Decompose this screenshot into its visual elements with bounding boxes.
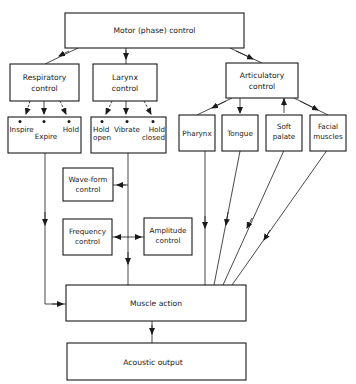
amplitude-control-box: Amplitude control xyxy=(144,218,192,255)
amplitude-label-1: Amplitude xyxy=(150,226,187,235)
motor-connectors xyxy=(45,48,262,64)
speech-production-diagram: Motor (phase) control Respiratory contro… xyxy=(0,0,356,384)
hold-open-label-2: open xyxy=(93,133,111,142)
hold-label: Hold xyxy=(63,125,79,134)
muscle-action-box: Muscle action xyxy=(66,285,246,321)
waveform-label-2: control xyxy=(76,185,101,194)
expire-label: Expire xyxy=(35,132,58,141)
larynx-label-1: Larynx xyxy=(112,73,138,82)
articulatory-label-1: Articulatory xyxy=(240,71,285,80)
larynx-label-2: control xyxy=(112,84,138,93)
larynx-to-muscle-line xyxy=(112,153,144,285)
soft-palate-box: Soft palate xyxy=(266,115,302,151)
respiratory-control-box: Respiratory control xyxy=(10,64,79,101)
pharynx-label: Pharynx xyxy=(182,129,212,138)
tongue-label: Tongue xyxy=(226,129,253,138)
frequency-label-2: control xyxy=(75,237,100,246)
waveform-control-box: Wave-form control xyxy=(63,168,113,201)
soft-palate-label-2: palate xyxy=(273,132,296,141)
inspire-label: Inspire xyxy=(10,125,35,134)
amplitude-label-2: control xyxy=(156,236,181,245)
facial-muscles-box: Facial muscles xyxy=(310,115,346,151)
facial-label-2: muscles xyxy=(313,132,343,141)
pharynx-box: Pharynx xyxy=(179,115,215,151)
muscle-action-label: Muscle action xyxy=(130,299,182,308)
soft-palate-label-1: Soft xyxy=(277,122,291,131)
respiratory-label-2: control xyxy=(31,84,57,93)
articulator-to-muscle-lines xyxy=(205,146,330,285)
articulatory-control-box: Articulatory control xyxy=(226,63,298,98)
hold-closed-label-2: closed xyxy=(142,133,165,142)
hold-open-dot xyxy=(101,120,104,123)
vibrate-label: Vibrate xyxy=(114,125,140,134)
vibrate-dot xyxy=(126,120,129,123)
hold-closed-dot xyxy=(152,120,155,123)
respiratory-option-connectors xyxy=(26,101,66,114)
articulatory-label-2: control xyxy=(249,82,275,91)
motor-control-label: Motor (phase) control xyxy=(114,26,196,35)
larynx-option-connectors xyxy=(106,101,151,114)
larynx-control-box: Larynx control xyxy=(93,64,157,101)
acoustic-output-box: Acoustic output xyxy=(67,343,246,380)
respiratory-options-box: Inspire Expire Hold xyxy=(8,117,81,153)
respiratory-label-1: Respiratory xyxy=(23,73,67,82)
waveform-label-1: Wave-form xyxy=(68,175,107,184)
frequency-label-1: Frequency xyxy=(69,227,107,236)
larynx-options-box: Hold open Vibrate Hold closed xyxy=(91,117,166,153)
acoustic-output-label: Acoustic output xyxy=(123,358,182,367)
articulatory-connectors xyxy=(197,98,328,115)
inspire-dot xyxy=(19,120,22,123)
hold-dot xyxy=(68,120,71,123)
facial-label-1: Facial xyxy=(318,122,338,131)
motor-control-box: Motor (phase) control xyxy=(65,13,244,48)
frequency-control-box: Frequency control xyxy=(63,219,112,255)
tongue-box: Tongue xyxy=(222,115,258,151)
expire-dot xyxy=(43,120,46,123)
